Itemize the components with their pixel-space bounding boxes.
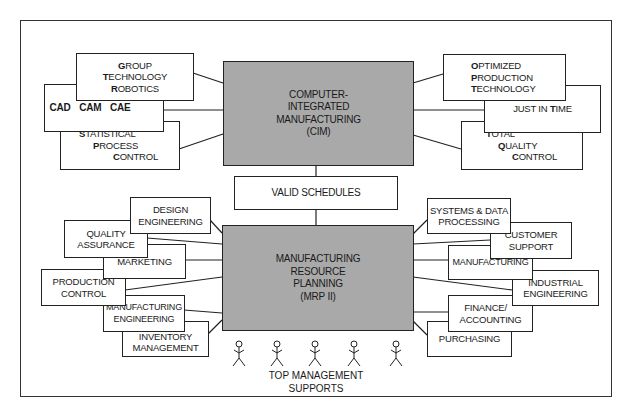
label-line: INDUSTRIAL [528,277,582,289]
label-line: MANUFACTURING [276,114,361,127]
label-line: CONTROL [79,151,179,163]
label-line: (CIM) [307,126,331,139]
box-design-engineering: DESIGN ENGINEERING [130,197,211,234]
label-line: RESOURCE [290,266,345,279]
box-mrp-ii: MANUFACTURING RESOURCE PLANNING (MRP II) [222,225,414,331]
label-line: MANAGEMENT [132,342,198,354]
label-line: GROUP [118,60,152,72]
label-line: PROCESSING [438,216,499,228]
label-line: JUST IN TIME [513,103,572,115]
label-line: PURCHASING [439,333,500,345]
diagram-canvas: STATISTICAL PROCESS CONTROL CAD CAM CAE … [0,0,632,417]
label-line: SUPPORT [509,241,553,253]
stick-figure-icon [269,340,285,368]
label-line: PLANNING [293,278,343,291]
label-line: QUALITY [486,140,582,152]
label-line: QUALITY [86,228,125,240]
label-line: MANUFACTURING [276,253,361,266]
label-line: OPTIMIZED [471,60,565,72]
label-line: DESIGN [153,204,188,216]
top-management-supports-label: TOP MANAGEMENT SUPPORTS [246,370,386,395]
label-line: PRODUCTION [471,72,565,84]
label-line: SUPPORTS [246,383,386,396]
label-line: COMPUTER- [289,89,348,102]
label-line: TECHNOLOGY [471,83,565,95]
box-valid-schedules: VALID SCHEDULES [234,176,398,210]
label-line: TECHNOLOGY [103,71,168,83]
stick-figure-icon [307,340,323,368]
label-line: VALID SCHEDULES [271,187,360,200]
stick-figure-icon [346,340,362,368]
box-cim: COMPUTER- INTEGRATED MANUFACTURING (CIM) [223,61,414,166]
label-line: ENGINEERING [523,288,587,300]
box-group-technology-robotics: GROUP TECHNOLOGY ROBOTICS [76,53,194,101]
label-line: CONTROL [486,151,582,163]
label-line: INVENTORY [139,331,192,343]
label-line: ACCOUNTING [460,314,522,326]
label-line: ROBOTICS [111,83,159,95]
box-optimized-production-technology: OPTIMIZED PRODUCTION TECHNOLOGY [443,54,566,101]
stick-figure-icon [231,340,247,368]
label-line: FINANCE/ [464,302,517,314]
label-line: PROCESS [79,140,179,152]
label-line: ENGINEERING [114,314,175,326]
label-line: ENGINEERING [138,216,202,228]
label-line: (MRP II) [300,291,335,304]
label-line: CUSTOMER [505,229,558,241]
label-line: CONTROL [61,288,106,300]
label-line: CAD CAM CAE [50,102,131,114]
label-line: ASSURANCE [77,239,134,251]
stick-figure-icon [388,340,404,368]
label-line: SYSTEMS & DATA [430,205,508,217]
label-line: TOP MANAGEMENT [246,370,386,383]
label-line: INTEGRATED [288,101,350,114]
box-systems-data-processing: SYSTEMS & DATA PROCESSING [427,198,511,234]
